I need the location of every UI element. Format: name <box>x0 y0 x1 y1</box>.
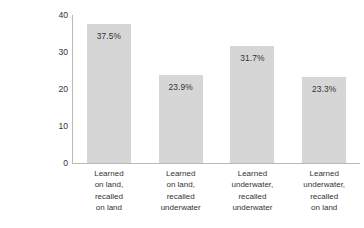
x-axis-label-1-line-4: underwater <box>145 202 217 213</box>
bar-learned-underwater-recalled-on-land[interactable]: 23.3% <box>302 77 346 163</box>
bar-learned-underwater-recalled-underwater[interactable]: 31.7% <box>230 46 274 163</box>
x-axis-label-2-line-2: underwater, <box>217 179 289 190</box>
x-axis-label-3: Learned underwater, recalled on land <box>288 168 360 213</box>
y-tick-label-40: 40 <box>42 11 68 20</box>
x-axis-label-2-line-1: Learned <box>217 168 289 179</box>
y-tick-label-20: 20 <box>42 85 68 94</box>
x-axis-label-0-line-4: on land <box>73 202 145 213</box>
x-axis-label-2-line-3: recalled <box>217 191 289 202</box>
x-axis-label-2: Learned underwater, recalled underwater <box>217 168 289 213</box>
bar-value-label-3: 23.3% <box>302 84 346 94</box>
plot-area: 37.5% 23.9% 31.7% 23.3% <box>73 15 360 163</box>
x-axis-label-3-line-2: underwater, <box>288 179 360 190</box>
y-tick-label-30: 30 <box>42 48 68 57</box>
x-axis-label-3-line-3: recalled <box>288 191 360 202</box>
x-axis-label-0-line-2: on land, <box>73 179 145 190</box>
x-axis-labels: Learned on land, recalled on land Learne… <box>73 168 360 224</box>
bar-chart-figure: Percentage of Words Recalled Correctly 4… <box>0 0 364 228</box>
x-axis-label-0-line-1: Learned <box>73 168 145 179</box>
bar-value-label-0: 37.5% <box>87 31 131 41</box>
x-axis-label-1-line-3: recalled <box>145 191 217 202</box>
x-axis-line <box>72 163 360 164</box>
x-axis-label-3-line-4: on land <box>288 202 360 213</box>
x-axis-label-0-line-3: recalled <box>73 191 145 202</box>
bar-value-label-2: 31.7% <box>230 53 274 63</box>
y-tick-label-0: 0 <box>42 159 68 168</box>
x-axis-label-3-line-1: Learned <box>288 168 360 179</box>
x-axis-label-1-line-1: Learned <box>145 168 217 179</box>
x-axis-label-1: Learned on land, recalled underwater <box>145 168 217 213</box>
bar-value-label-1: 23.9% <box>159 82 203 92</box>
x-axis-label-0: Learned on land, recalled on land <box>73 168 145 213</box>
bar-learned-on-land-recalled-underwater[interactable]: 23.9% <box>159 75 203 163</box>
x-axis-label-1-line-2: on land, <box>145 179 217 190</box>
x-axis-label-2-line-4: underwater <box>217 202 289 213</box>
bar-learned-on-land-recalled-on-land[interactable]: 37.5% <box>87 24 131 163</box>
y-tick-label-10: 10 <box>42 122 68 131</box>
